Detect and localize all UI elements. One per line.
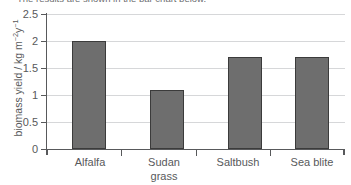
- x-divider-tick-1: [121, 150, 122, 156]
- y-tick-label-0.5: 0.5: [4, 117, 38, 128]
- x-axis-cap-right: [343, 149, 345, 155]
- bar-saltbush: [228, 57, 262, 149]
- y-tick-label-2.5: 2.5: [4, 9, 38, 20]
- bar-alfalfa: [72, 41, 106, 149]
- x-category-label-sea-blite: Sea blite: [274, 156, 350, 170]
- x-category-label-alfalfa: Alfalfa: [52, 156, 128, 170]
- x-divider-tick-2: [196, 150, 197, 156]
- y-tick-label-1.5: 1.5: [4, 63, 38, 74]
- y-tick-label-2: 2: [4, 36, 38, 47]
- y-tick-label-0: 0: [4, 144, 38, 155]
- x-category-label-sudan-grass: Sudan grass: [126, 156, 202, 183]
- x-category-label-saltbush: Saltbush: [200, 156, 276, 170]
- plot-area: [47, 14, 345, 149]
- y-axis-title-exponent-2: −1: [11, 20, 20, 28]
- y-axis-title-mid: y: [12, 28, 24, 33]
- bar-sea-blite: [295, 57, 329, 149]
- x-divider-tick-3: [270, 150, 271, 156]
- bar-chart-figure: biomass yield / kg m−2y−1 2.5 2 1.5 1 0.…: [0, 0, 351, 185]
- x-axis-cap-left: [46, 149, 48, 155]
- y-tick-label-1: 1: [4, 90, 38, 101]
- bar-sudan-grass: [150, 90, 184, 149]
- gridline-2.5: [47, 14, 345, 15]
